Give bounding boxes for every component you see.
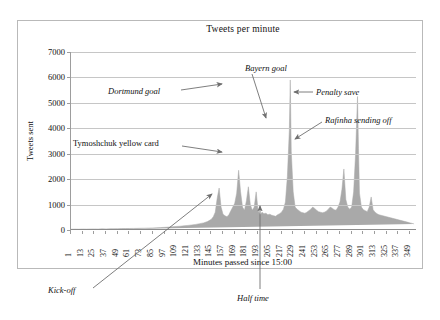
x-tick-mark [281, 231, 282, 234]
y-tick-label: 7000 [48, 47, 65, 57]
x-tick-mark [199, 231, 200, 234]
gridline [71, 52, 416, 53]
y-tick-mark [67, 77, 71, 78]
x-tick-mark [187, 231, 188, 234]
y-tick-label: 3000 [48, 149, 65, 159]
y-tick-label: 4000 [48, 123, 65, 133]
y-tick-mark [67, 52, 71, 53]
y-tick-mark [67, 179, 71, 180]
x-axis-title: Minutes passed since 15:00 [70, 257, 415, 267]
y-tick-mark [67, 103, 71, 104]
y-tick-mark [67, 128, 71, 129]
x-tick-mark [234, 231, 235, 234]
annotation-rafinha-sending-off: Rafinha sending off [325, 115, 392, 125]
annotation-penalty-save: Penalty save [316, 87, 359, 97]
x-tick-mark [70, 231, 71, 234]
x-tick-mark [292, 231, 293, 234]
x-tick-mark [257, 231, 258, 234]
x-tick-mark [245, 231, 246, 234]
x-tick-mark [269, 231, 270, 234]
y-tick-mark [67, 205, 71, 206]
x-tick-mark [140, 231, 141, 234]
gridline [71, 128, 416, 129]
y-axis-title-label: Tweets sent [25, 121, 35, 161]
x-tick-mark [152, 231, 153, 234]
x-tick-mark [82, 231, 83, 234]
x-tick-mark [210, 231, 211, 234]
x-tick-mark [316, 231, 317, 234]
annotation-half-time: Half time [237, 293, 269, 303]
gridline [71, 154, 416, 155]
annotation-dortmund-goal: Dortmund goal [108, 86, 160, 96]
annotation-tymoshchuk-yellow-card: Tymoshchuk yellow card [73, 138, 159, 148]
x-tick-mark [93, 231, 94, 234]
y-tick-label: 2000 [48, 174, 65, 184]
chart-screenshot: Tweets per minute Tweets sent 0100020003… [0, 0, 440, 320]
chart-title: Tweets per minute [70, 24, 416, 34]
x-tick-mark [327, 231, 328, 234]
x-tick-mark [351, 231, 352, 234]
x-tick-mark [409, 231, 410, 234]
gridline [71, 77, 416, 78]
y-tick-label: 6000 [48, 72, 65, 82]
x-tick-mark [105, 231, 106, 234]
x-tick-mark [374, 231, 375, 234]
x-axis-tick-labels: 1132537496173859710912113314515716918119… [70, 231, 415, 257]
y-tick-mark [67, 154, 71, 155]
x-tick-mark [339, 231, 340, 234]
x-tick-mark [117, 231, 118, 234]
annotation-kick-off: Kick-off [48, 285, 75, 295]
gridline [71, 179, 416, 180]
x-axis-line [71, 229, 416, 230]
x-tick-mark [175, 231, 176, 234]
x-tick-mark [386, 231, 387, 234]
x-tick-mark [397, 231, 398, 234]
y-tick-label: 1000 [48, 200, 65, 210]
gridline [71, 103, 416, 104]
x-tick-label: 349 [412, 248, 424, 257]
x-tick-mark [304, 231, 305, 234]
y-tick-label: 0 [61, 225, 65, 235]
gridline [71, 205, 416, 206]
x-tick-mark [222, 231, 223, 234]
y-tick-label: 5000 [48, 98, 65, 108]
x-tick-mark [362, 231, 363, 234]
x-tick-mark [164, 231, 165, 234]
annotation-bayern-goal: Bayern goal [245, 63, 287, 73]
y-axis-title: Tweets sent [24, 52, 36, 230]
x-tick-mark [128, 231, 129, 234]
